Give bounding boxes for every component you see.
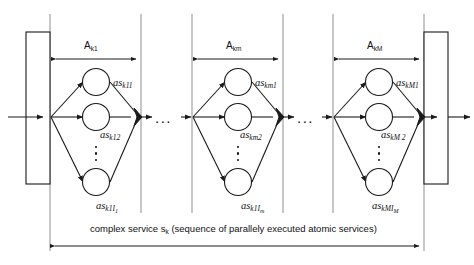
group-1-flow xyxy=(51,82,136,182)
start-activity-bar xyxy=(26,32,50,184)
node-label-k11: ask11 xyxy=(113,78,133,90)
node-label-kM1: askM1 xyxy=(396,78,419,90)
node-label-k1Im: ask1Im xyxy=(241,201,264,214)
end-activity-bar xyxy=(424,32,448,184)
node-label-k12: ask12 xyxy=(100,130,120,142)
vertical-ellipsis-1 xyxy=(95,146,98,165)
span-label-group-M: AkM xyxy=(367,41,382,53)
horizontal-ellipsis-2: ... xyxy=(297,110,314,125)
group-m-flow xyxy=(193,82,278,182)
node-label-km2: askm2 xyxy=(240,130,262,142)
vertical-ellipsis-M xyxy=(378,146,381,165)
node-label-k1I1: ask1I1 xyxy=(96,201,118,214)
diagram-root: Ak1 Akm AkM ask11 ask12 ask1I1 askm1 ask… xyxy=(0,0,474,265)
span-label-group-1: Ak1 xyxy=(84,41,98,53)
node-label-km1: askm1 xyxy=(255,78,277,90)
horizontal-ellipsis-1: ... xyxy=(155,110,172,125)
node-label-kMIM: askMIM xyxy=(372,201,398,214)
vertical-ellipsis-m xyxy=(237,146,240,165)
node-label-kM2: askM 2 xyxy=(381,130,406,142)
group-M-flow xyxy=(334,82,419,182)
span-label-group-m: Akm xyxy=(226,41,241,53)
diagram-caption: complex service sk (sequence of parallel… xyxy=(90,224,377,236)
